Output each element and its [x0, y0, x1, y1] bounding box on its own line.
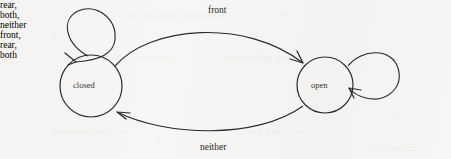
state-label-open: open	[311, 80, 328, 90]
transition-label-front: front	[208, 5, 226, 16]
state-diagram-figure: of the available information a transitio…	[0, 0, 451, 159]
open-self-loop-arc	[348, 53, 399, 99]
front-transition-arc	[115, 32, 303, 66]
neither-transition-arc	[117, 106, 303, 131]
closed-self-loop-arc	[67, 9, 115, 62]
transition-label-neither: neither	[200, 142, 226, 153]
diagram-canvas	[0, 0, 451, 159]
state-label-closed: closed	[73, 80, 95, 90]
